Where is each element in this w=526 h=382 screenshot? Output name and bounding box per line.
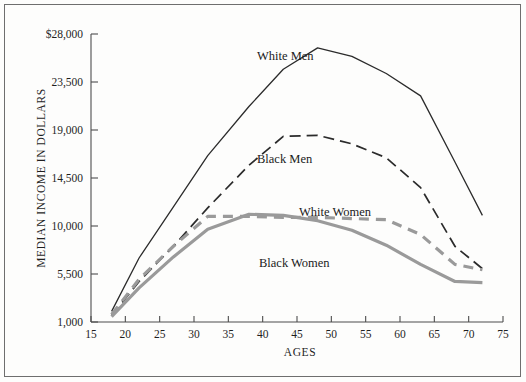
y-tick-label: 5,500 [57, 268, 83, 281]
y-axis-title: MEDIAN INCOME IN DOLLARS [35, 88, 47, 268]
line-chart: $28,00023,50019,00014,50010,0005,5001,00… [0, 0, 526, 382]
x-tick-label: 60 [394, 328, 406, 340]
x-tick-label: 55 [360, 328, 372, 340]
x-axis-title: AGES [284, 346, 316, 358]
series-label-black-men: Black Men [257, 152, 313, 166]
x-tick-label: 75 [497, 328, 509, 340]
series-paths [112, 48, 483, 317]
series-line-white-men [112, 48, 483, 311]
x-tick-label: 50 [326, 328, 338, 340]
y-tick-label: 10,000 [51, 220, 83, 233]
series-label-black-women: Black Women [259, 256, 330, 270]
x-tick-label: 65 [429, 328, 441, 340]
y-tick-label: 19,000 [51, 124, 83, 137]
x-tick-label: 45 [291, 328, 303, 340]
x-tick-label: 20 [120, 328, 132, 340]
series-label-white-women: White Women [299, 205, 372, 219]
x-tick-label: 35 [223, 328, 235, 340]
series-label-white-men: White Men [257, 49, 314, 63]
y-tick-label: 23,500 [51, 76, 83, 89]
y-tick-label: 1,000 [57, 316, 83, 329]
y-tick-label: $28,000 [46, 28, 84, 41]
x-axis-ticks: 15202530354045505560657075 [85, 316, 509, 340]
x-tick-label: 30 [188, 328, 200, 340]
x-tick-label: 40 [257, 328, 269, 340]
x-tick-label: 70 [463, 328, 475, 340]
x-tick-label: 25 [154, 328, 166, 340]
y-axis-ticks: $28,00023,50019,00014,50010,0005,5001,00… [46, 28, 98, 329]
chart-figure: $28,00023,50019,00014,50010,0005,5001,00… [0, 0, 526, 382]
y-tick-label: 14,500 [51, 172, 83, 185]
x-tick-label: 15 [85, 328, 97, 340]
